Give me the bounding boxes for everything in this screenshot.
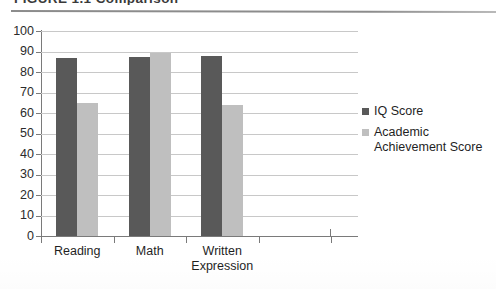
legend-swatch-icon [362, 129, 369, 136]
bar [56, 58, 77, 236]
y-axis-tick [36, 195, 41, 196]
y-axis-tick-label: 10 [4, 209, 34, 222]
chart-legend: IQ ScoreAcademicAchievement Score [362, 104, 494, 161]
bar [201, 56, 222, 236]
y-axis-tick [36, 113, 41, 114]
y-axis-tick [36, 216, 41, 217]
x-axis-tick [114, 237, 115, 243]
y-axis-tick [36, 134, 41, 135]
legend-item-label: IQ Score [374, 104, 423, 119]
y-axis-tick [36, 31, 41, 32]
bar-chart: 0102030405060708090100 ReadingMathWritte… [0, 0, 496, 289]
bar-group [201, 31, 243, 236]
y-axis-tick-label: 100 [4, 25, 34, 38]
y-axis-tick [36, 93, 41, 94]
y-axis-tick-label: 60 [4, 107, 34, 120]
y-axis-labels: 0102030405060708090100 [0, 0, 34, 289]
x-axis-tick [259, 237, 260, 243]
x-axis-category-label: Math [114, 244, 187, 259]
legend-item-label: AcademicAchievement Score [374, 125, 482, 155]
y-axis-tick-label: 0 [4, 230, 34, 243]
y-axis-tick-label: 90 [4, 45, 34, 58]
legend-item: AcademicAchievement Score [362, 125, 494, 155]
y-axis-tick [36, 72, 41, 73]
x-axis-category-label: Reading [41, 244, 114, 259]
x-axis-tick [186, 237, 187, 243]
y-axis-tick-label: 40 [4, 148, 34, 161]
y-axis-tick-label: 70 [4, 86, 34, 99]
y-axis-tick [36, 52, 41, 53]
plot-area [41, 31, 358, 236]
legend-item: IQ Score [362, 104, 494, 119]
bar-group [56, 31, 98, 236]
gridline [41, 236, 358, 237]
y-axis-tick [36, 236, 41, 237]
x-axis-tick [331, 237, 332, 243]
bar [77, 103, 98, 236]
bar-group [129, 31, 171, 236]
y-axis-tick-label: 20 [4, 189, 34, 202]
legend-swatch-icon [362, 108, 369, 115]
x-axis-tick [41, 237, 42, 243]
bar [129, 57, 150, 236]
y-axis-tick-label: 80 [4, 66, 34, 79]
x-axis-category-label: WrittenExpression [186, 244, 259, 273]
y-axis-tick [36, 154, 41, 155]
y-axis-tick-label: 50 [4, 127, 34, 140]
y-axis-tick-label: 30 [4, 168, 34, 181]
y-axis-tick [36, 175, 41, 176]
bar [150, 53, 171, 236]
bar [222, 105, 243, 236]
